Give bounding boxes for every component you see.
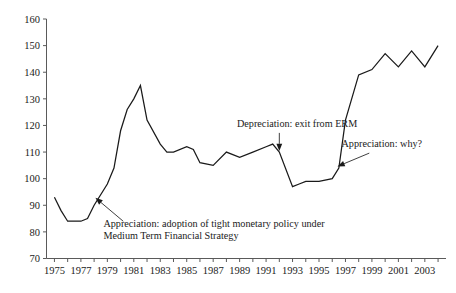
x-tick-label: 1975 xyxy=(44,265,65,276)
annotation-appreciation-why-leader-line xyxy=(344,153,369,164)
y-tick-label: 120 xyxy=(24,120,40,131)
x-tick-label: 2003 xyxy=(414,265,435,276)
x-tick-label: 1987 xyxy=(203,265,224,276)
y-tick-label: 130 xyxy=(24,94,40,105)
y-tick-label: 90 xyxy=(30,200,41,211)
annotation-appreciation-why: Appreciation: why? xyxy=(338,138,423,167)
x-tick-label: 1999 xyxy=(361,265,382,276)
annotation-exit-from-erm: Depreciation: exit from ERM xyxy=(237,118,357,151)
annotation-tight-monetary-policy-line-0: Appreciation: adoption of tight monetary… xyxy=(103,218,325,229)
x-tick-label: 1983 xyxy=(150,265,171,276)
annotation-appreciation-why-line-0: Appreciation: why? xyxy=(341,138,422,149)
x-tick-label: 1997 xyxy=(335,265,356,276)
data-series-line-0 xyxy=(54,46,438,222)
x-tick-label: 1991 xyxy=(256,265,277,276)
x-tick-label: 1989 xyxy=(229,265,250,276)
y-tick-label: 100 xyxy=(24,173,40,184)
annotation-exit-from-erm-line-0: Depreciation: exit from ERM xyxy=(237,118,357,129)
annotation-tight-monetary-policy-text: Appreciation: adoption of tight monetary… xyxy=(103,218,325,241)
annotation-appreciation-why-text: Appreciation: why? xyxy=(341,138,422,149)
annotation-tight-monetary-policy: Appreciation: adoption of tight monetary… xyxy=(95,198,325,241)
y-tick-label: 140 xyxy=(24,67,40,78)
x-tick-label: 2001 xyxy=(388,265,409,276)
x-tick-label: 1985 xyxy=(176,265,197,276)
x-tick-label: 1981 xyxy=(123,265,144,276)
chart-container: 7080901001101201301401501601975197719791… xyxy=(0,0,456,293)
y-tick-label: 80 xyxy=(30,227,41,238)
x-tick-label: 1995 xyxy=(309,265,330,276)
annotation-tight-monetary-policy-line-1: Medium Term Financial Strategy xyxy=(103,230,239,241)
line-chart: 7080901001101201301401501601975197719791… xyxy=(0,0,456,293)
x-tick-label: 1979 xyxy=(97,265,118,276)
y-tick-label: 70 xyxy=(30,253,41,264)
annotation-exit-from-erm-text: Depreciation: exit from ERM xyxy=(237,118,357,129)
y-tick-label: 160 xyxy=(24,14,40,25)
x-tick-label: 1977 xyxy=(70,265,91,276)
y-tick-label: 150 xyxy=(24,40,40,51)
x-tick-label: 1993 xyxy=(282,265,303,276)
annotation-appreciation-why-arrow-head-icon xyxy=(338,161,346,166)
y-tick-label: 110 xyxy=(25,147,40,158)
